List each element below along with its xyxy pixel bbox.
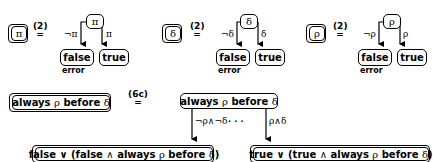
text-before: before [228, 96, 272, 107]
edge-label-rho: ρ [403, 29, 408, 39]
close-paren: ) [428, 149, 433, 160]
root-node-always: always ρ before δ [180, 93, 278, 109]
equation-label-pi: (2) = [33, 22, 47, 38]
true-node-delta: true [255, 49, 285, 66]
text-false-or-false: false ∨ (false [29, 149, 107, 160]
ellipsis: · · · [228, 116, 244, 126]
text-before: before [165, 149, 209, 160]
delta-symbol: δ [104, 97, 110, 108]
true-node-rho: true [397, 49, 427, 66]
text-always: always [327, 149, 372, 160]
error-annotation-rho: error [360, 66, 383, 75]
lhs-rho-inner-box: ρ [309, 26, 325, 41]
false-node-delta: false [216, 49, 250, 66]
right-result-inner-box: true ∨ (true ∧ always ρ before δ) [253, 147, 429, 161]
true-node-pi: true [99, 49, 129, 66]
lhs-always-inner-box: always ρ before δ [12, 95, 110, 110]
edge-label-pi: π [106, 29, 112, 39]
edge-label-delta: δ [261, 29, 266, 39]
root-symbol: δ [246, 16, 252, 27]
root-node-pi: π [86, 14, 104, 29]
false-label: false [219, 52, 246, 63]
close-paren: ) [215, 149, 220, 160]
false-node-rho: false [358, 49, 392, 66]
error-annotation-pi: error [62, 66, 85, 75]
edge-label-not-rho-and-not-delta: ¬ρ∧¬δ [195, 116, 227, 126]
left-result-inner-box: false ∨ (false ∧ always ρ before δ) [35, 147, 213, 161]
equals-sign: = [333, 30, 347, 38]
equation-label-6c: (6c) = [128, 90, 148, 106]
text-before: before [60, 97, 104, 108]
edge-label-not-pi: ¬π [64, 29, 77, 39]
edge-label-rho-and-delta: ρ∧δ [269, 116, 286, 126]
root-symbol: ρ [389, 16, 395, 27]
lhs-pi-symbol: π [16, 28, 23, 39]
lhs-pi-inner-box: π [11, 26, 27, 41]
equation-label-rho: (2) = [333, 22, 347, 38]
equals-sign: = [190, 30, 204, 38]
edges-layer [0, 0, 433, 162]
root-node-delta: δ [240, 14, 258, 29]
lhs-rho-symbol: ρ [314, 28, 320, 39]
equals-sign: = [128, 98, 148, 106]
false-node-pi: false [60, 49, 94, 66]
root-node-rho: ρ [383, 14, 401, 29]
lhs-delta-inner-box: δ [165, 26, 181, 41]
false-label: false [63, 52, 90, 63]
true-label: true [102, 52, 126, 63]
text-true-or-true: true ∨ (true [249, 149, 319, 160]
edge-label-not-delta: ¬δ [221, 29, 234, 39]
true-label: true [258, 52, 282, 63]
lhs-delta-symbol: δ [170, 28, 176, 39]
and-symbol: ∧ [320, 149, 327, 160]
root-symbol: π [92, 16, 99, 27]
equation-label-delta: (2) = [190, 22, 204, 38]
text-always: always [114, 149, 159, 160]
text-before: before [378, 149, 422, 160]
delta-symbol: δ [272, 96, 278, 107]
false-label: false [361, 52, 388, 63]
edge-label-not-rho: ¬ρ [363, 29, 376, 39]
text-always: always [12, 97, 50, 108]
true-label: true [400, 52, 424, 63]
error-annotation-delta: error [218, 66, 241, 75]
text-always: always [180, 96, 222, 107]
equals-sign: = [33, 30, 47, 38]
and-symbol: ∧ [106, 149, 113, 160]
